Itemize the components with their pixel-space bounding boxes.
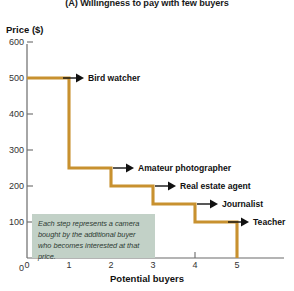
- arrow-amateur-photographer: [113, 164, 134, 173]
- y-tick-label-300: 300: [0, 145, 24, 155]
- y-tick-label-200: 200: [0, 181, 24, 191]
- x-tick-label-0: 0: [17, 260, 37, 270]
- arrow-journalist: [197, 200, 218, 209]
- callout-label-teacher: Teacher: [253, 217, 285, 227]
- callout-label-real-estate-agent: Real estate agent: [180, 181, 251, 191]
- y-tick-label-400: 400: [0, 109, 24, 119]
- callout-label-amateur-photographer: Amateur photographer: [138, 163, 231, 173]
- x-tick-label-5: 5: [227, 260, 247, 270]
- arrow-real-estate-agent: [155, 182, 176, 191]
- callout-label-journalist: Journalist: [222, 199, 263, 209]
- note-box: Each step represents a camera bought by …: [32, 214, 155, 258]
- callout-label-bird-watcher: Bird watcher: [88, 73, 140, 83]
- note-text: Each step represents a camera bought by …: [38, 218, 150, 262]
- x-tick-label-4: 4: [185, 260, 205, 270]
- y-tick-label-500: 500: [0, 73, 24, 83]
- chart-figure: (A) Willingness to pay with few buyers P…: [0, 0, 294, 291]
- y-axis-ticks: [27, 42, 33, 222]
- y-tick-label-600: 600: [0, 37, 24, 47]
- arrow-bird-watcher: [63, 74, 84, 83]
- y-tick-label-100: 100: [0, 217, 24, 227]
